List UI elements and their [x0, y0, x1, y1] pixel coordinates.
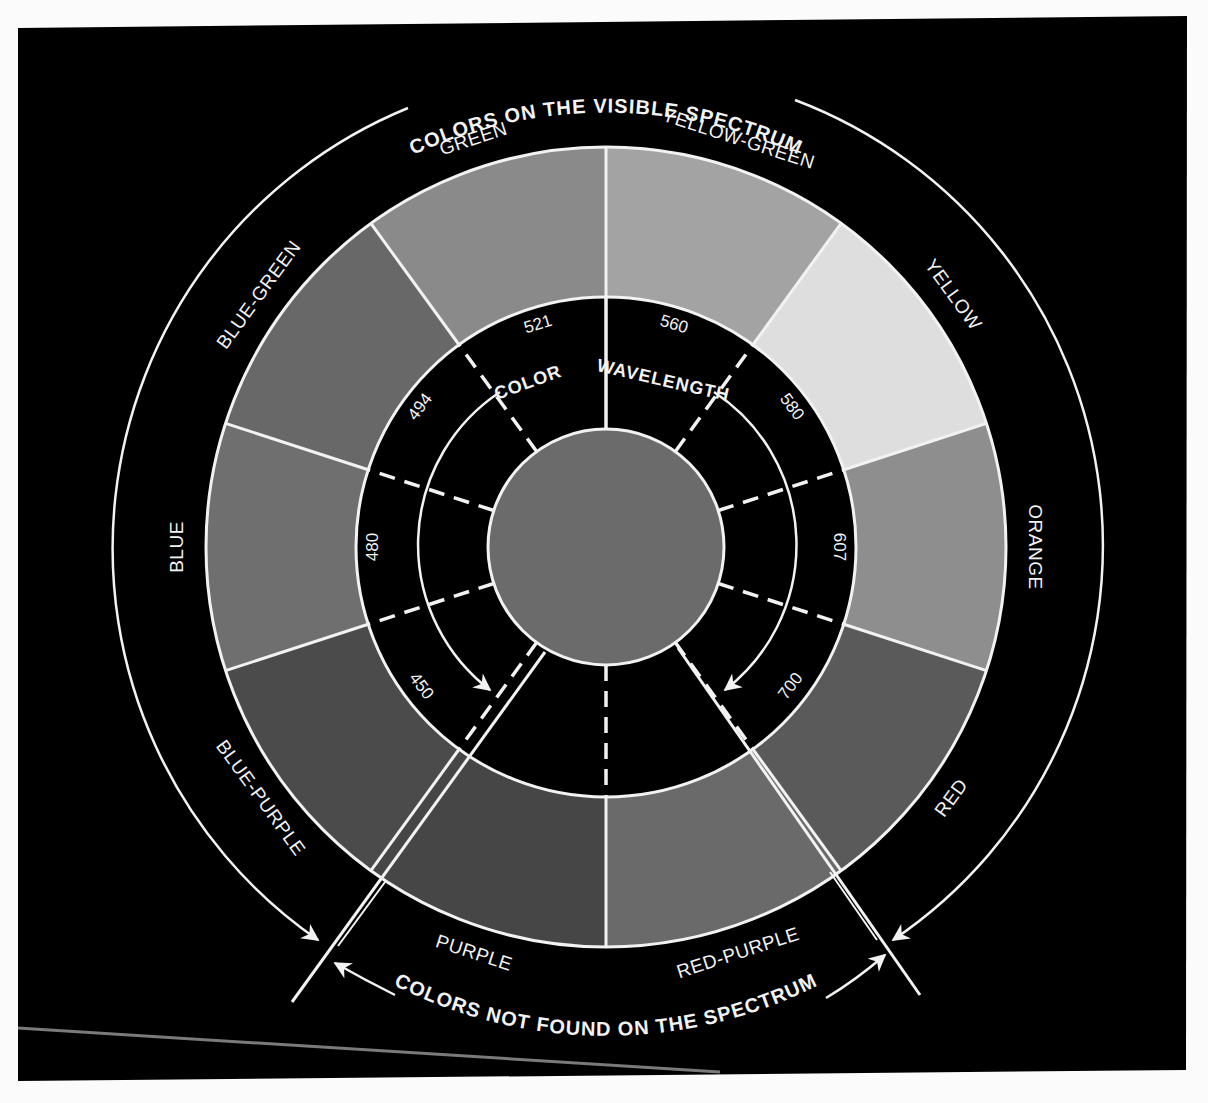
- color-wheel-svg: COLORS ON THE VISIBLE SPECTRUM COLORS NO…: [0, 0, 1208, 1103]
- label-blue: BLUE: [166, 521, 187, 573]
- center-core: [488, 429, 724, 665]
- wavelength-607: 607: [830, 533, 849, 561]
- wavelength-480: 480: [363, 533, 382, 561]
- color-wheel-figure: COLORS ON THE VISIBLE SPECTRUM COLORS NO…: [0, 0, 1208, 1103]
- label-orange: ORANGE: [1025, 504, 1046, 589]
